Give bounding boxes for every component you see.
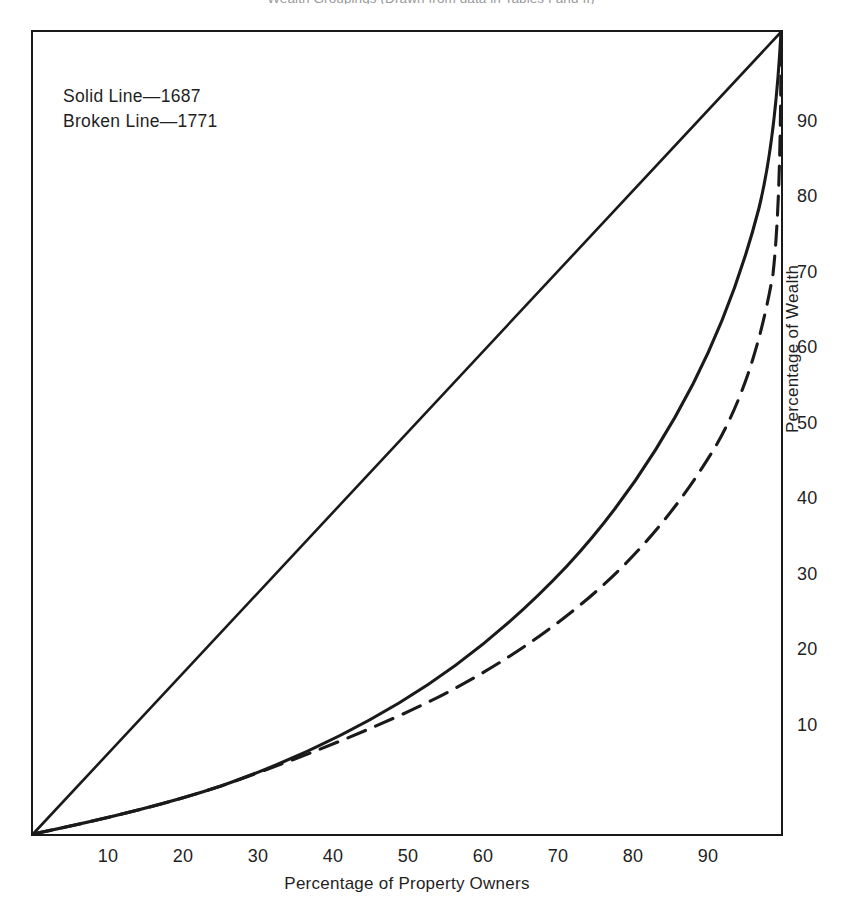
y-tick-label: 80: [797, 186, 817, 206]
x-tick-label: 70: [538, 846, 578, 867]
x-tick-label: 10: [88, 846, 128, 867]
y-tick-label: 90: [797, 111, 817, 131]
y-tick-label: 30: [797, 564, 817, 584]
x-tick-label: 20: [163, 846, 203, 867]
x-tick-label: 80: [613, 846, 653, 867]
y-tick-label: 20: [797, 639, 817, 659]
legend-entry-solid: Solid Line—1687: [63, 84, 218, 109]
lorenz-curve-figure: Wealth Groupings (Drawn from data in Tab…: [0, 0, 862, 903]
y-axis-title: Percentage of Wealth: [783, 265, 803, 433]
legend: Solid Line—1687 Broken Line—1771: [63, 84, 218, 134]
y-tick-label: 10: [797, 715, 817, 735]
legend-entry-broken: Broken Line—1771: [63, 109, 218, 134]
x-tick-label: 50: [388, 846, 428, 867]
x-tick-label: 60: [463, 846, 503, 867]
x-tick-label: 40: [313, 846, 353, 867]
figure-caption: Wealth Groupings (Drawn from data in Tab…: [0, 0, 862, 4]
x-tick-label: 90: [688, 846, 728, 867]
x-axis-title: Percentage of Property Owners: [31, 874, 783, 894]
x-tick-label: 30: [238, 846, 278, 867]
y-tick-label: 40: [797, 488, 817, 508]
curve-layer: [31, 30, 783, 836]
